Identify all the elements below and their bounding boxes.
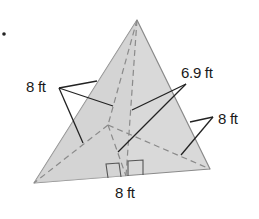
list-bullet	[2, 32, 6, 36]
pyramid-left-face-shade	[34, 20, 137, 183]
label-lateral-edge-left: 8 ft	[26, 78, 47, 95]
label-lateral-edge-right: 8 ft	[218, 110, 239, 127]
pyramid-diagram: 8 ft 6.9 ft 8 ft 8 ft	[0, 0, 259, 219]
label-slant-height: 6.9 ft	[181, 64, 214, 81]
label-base-edge: 8 ft	[115, 184, 136, 201]
leader-left-to-edge-top	[59, 81, 97, 88]
